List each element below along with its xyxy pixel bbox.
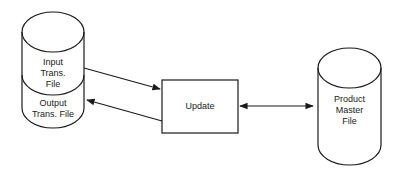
update-label: Update [162,101,238,112]
update-to-output-arrow [87,100,162,121]
input-to-update-arrow [84,68,160,89]
output-trans-file-label: Output Trans. File [20,98,86,120]
product-master-file-label: Product Master File [318,94,381,127]
input-file-top-ellipse [22,12,84,52]
input-trans-file-label: Input Trans. File [22,57,84,90]
